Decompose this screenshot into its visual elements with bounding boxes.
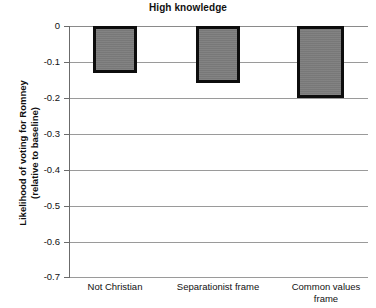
x-category-label-common-values-frame-line2: frame — [276, 293, 376, 305]
gridline-n0.7 — [70, 277, 368, 278]
plot-area — [70, 26, 368, 277]
x-category-label-not-christian: Not Christian — [66, 281, 164, 293]
bar-common-values-frame[interactable] — [297, 26, 344, 98]
gridline-n0.2 — [70, 98, 368, 99]
y-tick-label-4: -0.4 — [20, 164, 60, 175]
x-category-label-common-values-frame: Common values frame — [276, 281, 376, 304]
bar-not-christian[interactable] — [93, 26, 137, 73]
x-category-label-not-christian-line1: Not Christian — [66, 281, 164, 293]
y-tick-label-5: -0.5 — [20, 200, 60, 211]
chart-title: High knowledge — [0, 2, 376, 13]
gridline-n0.5 — [70, 206, 368, 207]
y-tick-label-6: -0.6 — [20, 236, 60, 247]
x-category-label-common-values-frame-line1: Common values — [276, 281, 376, 293]
bar-separationist-frame[interactable] — [196, 26, 240, 83]
x-category-label-separationist-frame-line1: Separationist frame — [158, 281, 278, 293]
gridline-n0.4 — [70, 170, 368, 171]
y-tick-label-0: 0 — [20, 20, 60, 31]
gridline-n0.3 — [70, 134, 368, 135]
x-category-label-separationist-frame: Separationist frame — [158, 281, 278, 293]
y-tick-label-1: -0.1 — [20, 56, 60, 67]
bar-chart-figure: High knowledge Likelihood of voting for … — [0, 0, 376, 308]
gridline-n0.6 — [70, 242, 368, 243]
y-axis-title-line2: (relative to baseline) — [29, 107, 41, 199]
y-tick-label-2: -0.2 — [20, 92, 60, 103]
y-tick-label-7: -0.7 — [20, 271, 60, 282]
y-tick-label-3: -0.3 — [20, 128, 60, 139]
